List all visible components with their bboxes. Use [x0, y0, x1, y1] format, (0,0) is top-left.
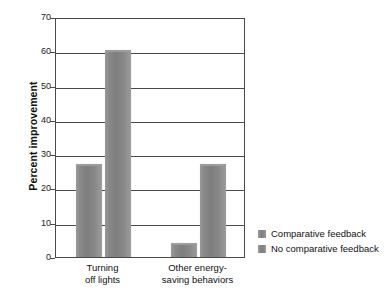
- y-tick-label-40: 40: [28, 116, 51, 125]
- y-tick-label-50: 50: [28, 82, 51, 91]
- bar-top-highlight: [105, 50, 131, 52]
- gridline-50: [56, 88, 244, 89]
- legend-swatch-no-comparative-feedback: [258, 245, 266, 253]
- legend-item-comparative-feedback: Comparative feedback: [258, 228, 379, 239]
- bar: [200, 164, 226, 257]
- legend-swatch-comparative-feedback: [258, 230, 266, 238]
- y-tick-label-30: 30: [28, 150, 51, 159]
- bar-top-highlight: [200, 164, 226, 166]
- y-tick-label-60: 60: [28, 47, 51, 56]
- bar-top-highlight: [171, 243, 197, 245]
- bar-top-highlight: [76, 164, 102, 166]
- x-axis-label-line: Other energy-: [138, 262, 258, 274]
- legend-item-no-comparative-feedback: No comparative feedback: [258, 243, 379, 254]
- bar: [171, 243, 197, 257]
- plot-area: [55, 18, 245, 258]
- chart-legend: Comparative feedback No comparative feed…: [258, 228, 379, 254]
- legend-label-no-comparative-feedback: No comparative feedback: [271, 243, 379, 254]
- bar: [76, 164, 102, 257]
- bar: [105, 50, 131, 257]
- gridline-60: [56, 53, 244, 54]
- y-tick-label-10: 10: [28, 219, 51, 228]
- gridline-30: [56, 156, 244, 157]
- y-tick-label-70: 70: [28, 13, 51, 22]
- bar-chart-figure: Percent improvement 010203040506070 Turn…: [0, 0, 384, 299]
- gridline-40: [56, 122, 244, 123]
- y-tick-label-20: 20: [28, 184, 51, 193]
- x-axis-label-1: Other energy-saving behaviors: [138, 262, 258, 285]
- y-tick-label-0: 0: [28, 253, 51, 262]
- x-axis-label-line: saving behaviors: [138, 274, 258, 286]
- legend-label-comparative-feedback: Comparative feedback: [271, 228, 366, 239]
- y-tick-mark-0: [50, 258, 55, 259]
- y-axis-title: Percent improvement: [27, 46, 39, 226]
